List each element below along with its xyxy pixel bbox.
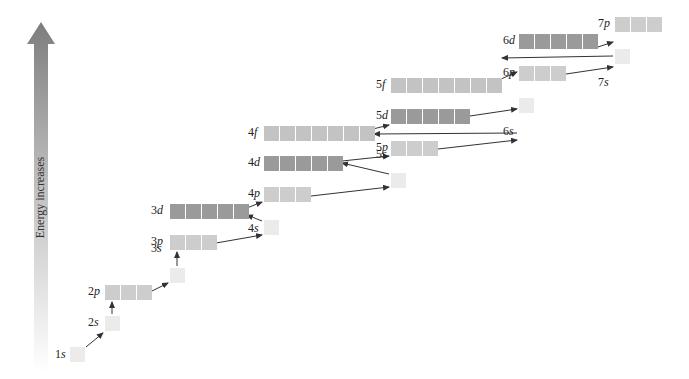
orbital-label-6d: 6d: [503, 33, 515, 48]
orbital-box: [455, 78, 470, 93]
orbital-box: [344, 126, 359, 141]
orbital-box: [121, 285, 136, 300]
orbital-box: [391, 141, 406, 156]
orbital-4s: [264, 220, 279, 235]
orbital-box: [170, 235, 185, 250]
orbital-box: [407, 141, 422, 156]
orbital-box: [70, 347, 85, 362]
orbital-6d: [519, 34, 598, 49]
orbital-4d: [264, 156, 343, 171]
orbital-box: [407, 78, 422, 93]
arrow-7s-to-5f: [502, 56, 613, 58]
orbital-box: [519, 34, 534, 49]
orbital-6p: [519, 66, 566, 81]
orbital-label-7p: 7p: [598, 16, 610, 31]
orbital-box: [264, 156, 279, 171]
orbital-box: [487, 78, 502, 93]
orbital-box: [535, 66, 550, 81]
arrow-6p-to-7s: [566, 67, 613, 74]
orbital-5p: [391, 141, 438, 156]
orbital-box: [567, 34, 582, 49]
orbital-box: [551, 34, 566, 49]
orbital-box: [296, 156, 311, 171]
orbital-box: [423, 109, 438, 124]
arrow-6d-to-7p: [598, 42, 613, 47]
orbital-4f: [264, 126, 375, 141]
orbital-label-5f: 5f: [376, 77, 385, 92]
orbital-label-2s: 2s: [88, 315, 99, 330]
orbital-box: [615, 17, 630, 32]
orbital-1s: [70, 347, 85, 362]
orbital-box: [137, 285, 152, 300]
orbital-box: [280, 156, 295, 171]
orbital-box: [264, 187, 279, 202]
orbital-4p: [264, 187, 311, 202]
orbital-box: [471, 78, 486, 93]
orbital-3s: [170, 268, 185, 283]
orbital-label-4d: 4d: [248, 155, 260, 170]
orbital-5d: [391, 109, 470, 124]
orbital-box: [296, 126, 311, 141]
orbital-box: [264, 126, 279, 141]
arrow-6s-to-4f: [374, 133, 517, 134]
orbital-6s: [519, 98, 534, 113]
orbital-box: [423, 141, 438, 156]
orbital-box: [423, 78, 438, 93]
orbital-box: [218, 204, 233, 219]
orbital-label-2p: 2p: [88, 284, 100, 299]
orbital-3d: [170, 204, 249, 219]
orbital-box: [455, 109, 470, 124]
orbital-label-3p: 3p: [151, 234, 163, 249]
orbital-label-5d: 5d: [376, 108, 388, 123]
orbital-box: [264, 220, 279, 235]
arrow-5d-to-6p: [470, 109, 517, 116]
orbital-box: [647, 17, 662, 32]
orbital-box: [328, 156, 343, 171]
arrow-4p-to-5s: [311, 187, 389, 196]
orbital-energy-diagram: Energy increases 1s2s2p3s3p3d4s4p4d4f5s5…: [0, 0, 689, 379]
orbital-box: [170, 204, 185, 219]
orbital-box: [312, 126, 327, 141]
orbital-box: [519, 98, 534, 113]
orbital-box: [519, 66, 534, 81]
orbital-label-4f: 4f: [248, 125, 257, 140]
orbital-box: [391, 173, 406, 188]
orbital-7p: [615, 17, 662, 32]
orbital-box: [186, 204, 201, 219]
orbital-label-7s: 7s: [598, 75, 609, 90]
orbital-box: [170, 268, 185, 283]
orbital-box: [551, 66, 566, 81]
orbital-box: [280, 126, 295, 141]
arrow-4f-to-5d: [373, 125, 389, 129]
arrow-1s-to-2s: [86, 333, 103, 347]
orbital-box: [105, 285, 120, 300]
aufbau-arrows: [0, 0, 689, 379]
arrow-2p-to-3s: [152, 283, 168, 291]
orbital-box: [202, 235, 217, 250]
orbital-box: [105, 316, 120, 331]
arrow-5s-to-4d: [342, 163, 389, 174]
orbital-box: [407, 109, 422, 124]
orbital-label-1s: 1s: [55, 347, 66, 362]
orbital-2p: [105, 285, 152, 300]
orbital-box: [391, 78, 406, 93]
orbital-box: [360, 126, 375, 141]
orbital-box: [280, 187, 295, 202]
arrow-3d-to-4p: [247, 202, 262, 208]
orbital-box: [631, 17, 646, 32]
orbital-label-6p: 6p: [503, 65, 515, 80]
orbital-label-3d: 3d: [151, 203, 163, 218]
orbital-label-4p: 4p: [248, 186, 260, 201]
orbital-label-4s: 4s: [248, 221, 259, 236]
orbital-box: [234, 204, 249, 219]
orbital-box: [439, 78, 454, 93]
orbital-box: [615, 49, 630, 64]
orbital-5f: [391, 78, 502, 93]
orbital-box: [583, 34, 598, 49]
orbital-3p: [170, 235, 217, 250]
orbital-box: [186, 235, 201, 250]
orbital-box: [439, 109, 454, 124]
orbital-box: [296, 187, 311, 202]
arrow-3p-to-4s: [216, 235, 262, 243]
orbital-box: [535, 34, 550, 49]
